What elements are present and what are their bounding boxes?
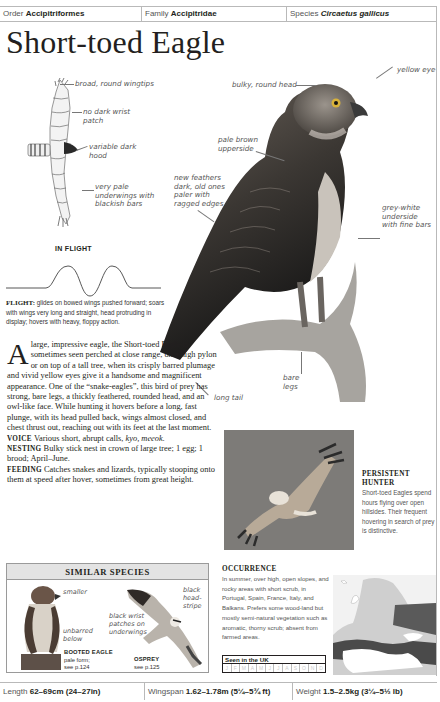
annotation-underside: grey-white underside with fine bars [382, 204, 434, 230]
osprey-caption: OSPREY see p.125 [134, 656, 174, 671]
taxonomy-header: Order Accipitriformes Family Accipitrida… [0, 6, 437, 22]
length-cell: Length 62–69cm (24–27in) [0, 683, 145, 700]
in-flight-caption: IN FLIGHT [55, 245, 92, 252]
distribution-map [333, 575, 436, 675]
intro-text: large, impressive eagle, the Short-toed … [7, 340, 217, 432]
length-label: Length [3, 687, 27, 696]
order-value: Accipitriformes [26, 9, 85, 18]
flight-pattern-wave-icon [6, 262, 161, 302]
month-cell: F [232, 664, 241, 672]
similar-species-box: SIMILAR SPECIES smaller unbarred below B… [6, 563, 209, 673]
nesting-label: NESTING [7, 445, 41, 453]
photo-caption-heading-2: HUNTER [362, 479, 438, 488]
field-guide-page: Order Accipitriformes Family Accipitrida… [0, 0, 440, 702]
measurements-footer: Length 62–69cm (24–27in) Wingspan 1.62–1… [0, 682, 437, 700]
weight-cell: Weight 1.5–2.5kg (3¼–5½ lb) [293, 683, 437, 700]
order-cell: Order Accipitriformes [0, 7, 142, 21]
annotation-wrist-patch: no dark wrist patch [83, 108, 143, 125]
intro-paragraph: Alarge, impressive eagle, the Short-toed… [7, 340, 219, 434]
occurrence-text: In summer, over high, open slopes, and r… [222, 574, 332, 642]
annotation-wingtips: broad, round wingtips [75, 80, 154, 89]
hunting-eagle-photo [224, 430, 354, 550]
weight-label: Weight [296, 687, 321, 696]
weight-value: 1.5–2.5kg (3¼–5½ lb) [323, 687, 403, 696]
occurrence-heading: OCCURRENCE [222, 565, 332, 574]
wingspan-cell: Wingspan 1.62–1.78m (5¼–5¾ ft) [145, 683, 293, 700]
annotation-bare-legs: bare legs [283, 374, 303, 391]
month-cell: J [274, 664, 283, 672]
annotation-round-head: bulky, round head [232, 81, 297, 90]
seen-in-uk-label: Seen in the UK [223, 656, 325, 664]
length-value: 62–69cm (24–27in) [30, 687, 101, 696]
photo-caption: PERSISTENT HUNTER Short-toed Eagles spen… [362, 470, 438, 536]
family-label: Family [145, 9, 169, 18]
flight-description: FLIGHT: glides on bowed wings pushed for… [6, 298, 166, 326]
leader-line [60, 84, 74, 85]
booted-note-smaller: smaller [63, 588, 87, 596]
month-cell: S [292, 664, 301, 672]
species-cell: Species Circaetus gallicus [287, 7, 437, 21]
month-cell: J [223, 664, 232, 672]
feeding-label: FEEDING [7, 466, 42, 474]
month-cell: N [309, 664, 318, 672]
occurrence-section: OCCURRENCE In summer, over high, open sl… [222, 565, 332, 642]
leader-line [358, 238, 380, 239]
order-label: Order [3, 9, 23, 18]
osprey-note-head-stripe: black head-stripe [183, 586, 209, 610]
voice-paragraph: VOICE Various short, abrupt calls, kyo, … [7, 434, 219, 444]
species-label: Species [290, 9, 318, 18]
booted-eagle-illustration [15, 582, 67, 670]
voice-label: VOICE [7, 435, 32, 443]
seen-in-uk-table: Seen in the UK J F M A M J J A S O N D [222, 655, 326, 673]
booted-eagle-page-ref[interactable]: see p.124 [64, 664, 89, 670]
annotation-yellow-eye: yellow eye [397, 66, 435, 75]
month-cell: M [240, 664, 249, 672]
voice-text: Various short, abrupt calls, [34, 434, 124, 443]
species-description: Alarge, impressive eagle, the Short-toed… [7, 340, 219, 486]
annotation-feathers: new feathers dark, old ones paler with r… [174, 174, 232, 208]
month-row: J F M A M J J A S O N D [223, 664, 325, 672]
hovering-eagle-image [224, 430, 354, 550]
booted-eagle-caption: BOOTED EAGLE pale form; see p.124 [64, 649, 114, 672]
osprey-note-wrist-patches: black wrist patches on underwings [109, 612, 161, 636]
osprey-name: OSPREY [134, 656, 159, 662]
drop-cap: A [7, 342, 29, 366]
flight-label: FLIGHT: [6, 299, 35, 307]
wingspan-value: 1.62–1.78m (5¼–5¾ ft) [186, 687, 271, 696]
month-cell: M [257, 664, 266, 672]
osprey-page-ref[interactable]: see p.125 [134, 664, 159, 670]
similar-species-heading: SIMILAR SPECIES [7, 564, 208, 580]
photo-caption-heading: PERSISTENT [362, 470, 438, 479]
month-cell: J [266, 664, 275, 672]
leader-line [82, 190, 94, 191]
month-cell: A [283, 664, 292, 672]
family-cell: Family Accipitridae [142, 7, 287, 21]
month-cell: O [300, 664, 309, 672]
voice-calls: kyo, meeok. [126, 434, 165, 443]
europe-map-image [333, 575, 436, 675]
nesting-paragraph: NESTING Bulky stick nest in crown of lar… [7, 444, 219, 465]
month-cell: A [249, 664, 258, 672]
leader-line [296, 85, 316, 86]
page-title: Short-toed Eagle [6, 24, 225, 60]
annotation-upperside: pale brown upperside [218, 136, 268, 153]
species-value: Circaetus gallicus [321, 9, 389, 18]
leader-line [72, 112, 82, 113]
booted-eagle-detail: pale form; [64, 657, 90, 663]
right-border [436, 6, 437, 676]
booted-note-unbarred: unbarred below [63, 627, 97, 643]
month-cell: D [317, 664, 325, 672]
flying-eagle-illustration [22, 78, 92, 228]
booted-eagle-name: BOOTED EAGLE [64, 649, 113, 655]
annotation-dark-hood: variable dark hood [89, 143, 149, 160]
family-value: Accipitridae [171, 9, 217, 18]
feeding-paragraph: FEEDING Catches snakes and lizards, typi… [7, 465, 219, 486]
wingspan-label: Wingspan [148, 687, 184, 696]
photo-caption-text: Short-toed Eagles spend hours flying ove… [362, 488, 438, 536]
leader-line [301, 352, 302, 374]
